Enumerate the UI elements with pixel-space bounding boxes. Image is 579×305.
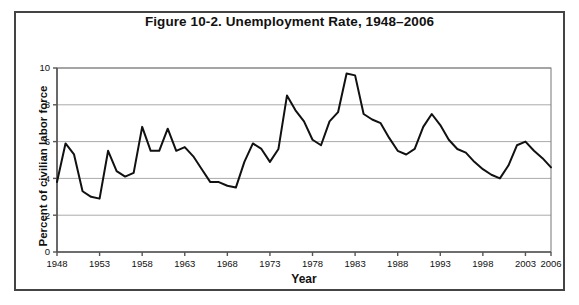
chart-title: Figure 10-2. Unemployment Rate, 1948–200…: [0, 14, 579, 29]
figure-root: Figure 10-2. Unemployment Rate, 1948–200…: [0, 0, 579, 305]
scan-artifact-text: [14, 0, 554, 9]
figure-border: [14, 11, 565, 291]
y-axis-title: Percent of civilian labor force: [37, 66, 49, 266]
x-axis-title: Year: [57, 272, 551, 286]
